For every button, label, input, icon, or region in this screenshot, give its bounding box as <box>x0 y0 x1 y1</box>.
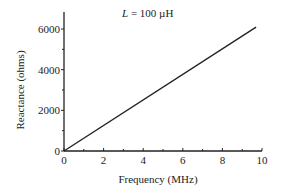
x-tick-label: 4 <box>140 154 146 166</box>
x-tick-label: 0 <box>61 154 67 166</box>
chart-title: L = 100 µH <box>121 7 173 19</box>
y-tick-label: 2000 <box>38 104 61 116</box>
y-tick-label: 6000 <box>38 23 61 35</box>
y-tick-label: 0 <box>55 145 61 157</box>
x-tick-label: 8 <box>220 154 226 166</box>
y-tick-label: 4000 <box>38 64 61 76</box>
chart: 02000400060000246810 L = 100 µH Frequenc… <box>0 0 283 196</box>
x-tick-label: 2 <box>101 154 107 166</box>
plot-area: 02000400060000246810 <box>38 12 268 166</box>
data-line <box>64 27 256 151</box>
x-axis-label: Frequency (MHz) <box>118 173 197 186</box>
y-axis-label: Reactance (ohms) <box>14 50 27 129</box>
x-tick-label: 10 <box>257 154 269 166</box>
x-tick-label: 6 <box>180 154 186 166</box>
